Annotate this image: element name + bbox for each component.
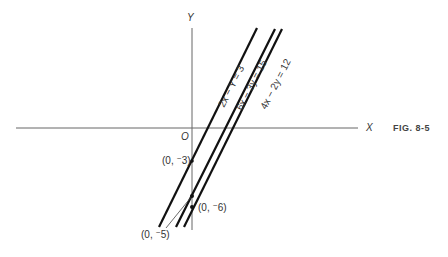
y-axis-label: Y bbox=[187, 12, 194, 23]
point-label-0-neg3: (0, ⁻3) bbox=[162, 155, 191, 166]
x-axis-label: X bbox=[366, 122, 373, 133]
figure-caption: FIG. 8-5 bbox=[393, 123, 430, 133]
point-label-0-neg5: (0, ⁻5) bbox=[141, 229, 170, 240]
point-0-neg5 bbox=[190, 194, 194, 198]
point-label-0-neg6: (0, ⁻6) bbox=[198, 202, 227, 213]
point-0-neg6 bbox=[190, 205, 194, 209]
diagram-canvas bbox=[0, 0, 448, 257]
origin-label: O bbox=[181, 131, 189, 142]
point-0-neg3 bbox=[190, 159, 194, 163]
